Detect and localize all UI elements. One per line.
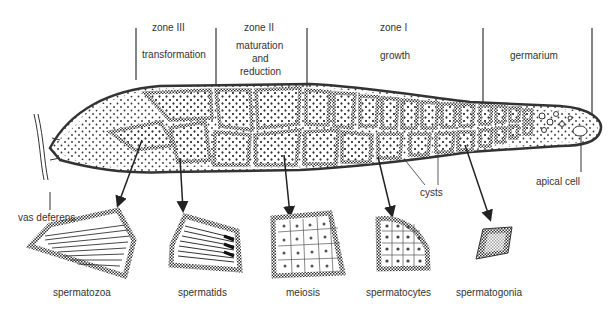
zone-3-function: transformation	[142, 49, 206, 61]
stage-label-spermatocytes: spermatocytes	[366, 287, 431, 299]
apical-cell	[573, 126, 587, 136]
spermatogonia-illustration	[476, 227, 512, 259]
stage-label-spermatogonia: spermatogonia	[456, 287, 522, 299]
zone-2-function-line-3: reduction	[240, 66, 281, 78]
germarium-label: germarium	[510, 50, 558, 62]
testis-diagram	[0, 0, 613, 312]
zone-1-function: growth	[380, 50, 410, 62]
vas-deferens-label: vas deferens	[18, 212, 75, 224]
stage-label-meiosis: meiosis	[286, 287, 320, 299]
spermatids-illustration	[171, 216, 240, 270]
vas-deferens-tube	[34, 114, 60, 210]
cysts-label: cysts	[420, 187, 443, 199]
zone-1-title: zone I	[380, 22, 407, 34]
zone-3-title: zone III	[152, 22, 185, 34]
zone-2-title: zone II	[244, 22, 274, 34]
zone-2-function-line-2: and	[252, 53, 269, 65]
stage-label-spermatozoa: spermatozoa	[53, 287, 111, 299]
zone-2-function-line-1: maturation	[236, 40, 283, 52]
meiosis-illustration	[273, 213, 343, 276]
apical-cell-label: apical cell	[536, 176, 580, 188]
stage-label-spermatids: spermatids	[178, 287, 227, 299]
spermatocytes-illustration	[378, 219, 428, 269]
